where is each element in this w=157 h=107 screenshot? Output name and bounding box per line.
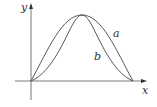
curve-b bbox=[31, 15, 133, 81]
curve-a-label: a bbox=[113, 27, 120, 40]
y-axis-label: y bbox=[20, 1, 28, 14]
y-axis-arrow-icon bbox=[29, 3, 33, 9]
x-axis-label: x bbox=[142, 84, 149, 97]
curve-b-label: b bbox=[94, 50, 101, 63]
graph-diagram: y x a b bbox=[0, 0, 157, 107]
curve-a bbox=[31, 15, 133, 81]
x-axis-arrow-icon bbox=[141, 79, 147, 83]
